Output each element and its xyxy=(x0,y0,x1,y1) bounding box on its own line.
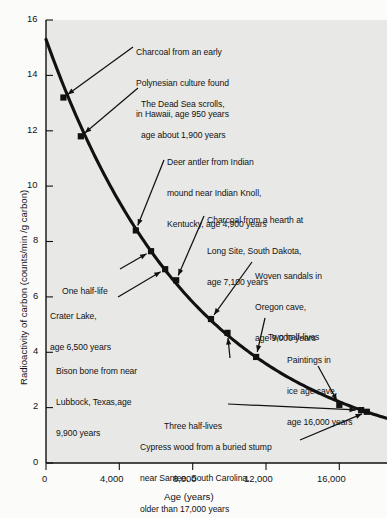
data-point-charcoal-hawaii xyxy=(60,94,66,100)
annotation-cypress-line1: Cypress wood from a buried stump xyxy=(140,442,272,452)
annotation-bison-bone-line2: Lubbock, Texas,age xyxy=(56,397,137,407)
annotation-cypress-line2: near Santee, South Carolina, xyxy=(140,473,272,483)
data-point-bison-bone xyxy=(224,330,230,336)
data-point-three-half-lives xyxy=(358,407,364,413)
y-tick-4: 4 xyxy=(33,345,38,356)
annotation-crater-lake-line1: Crater Lake, xyxy=(50,311,111,321)
y-tick-16: 16 xyxy=(27,13,37,24)
y-tick-10: 10 xyxy=(27,179,37,190)
annotation-charcoal-hawaii-line1: Charcoal from an early xyxy=(136,47,229,57)
annotation-bison-bone: Bison bone from near Lubbock, Texas,age … xyxy=(56,345,137,459)
annotation-ice-age-line1: Paintings in xyxy=(287,355,353,365)
y-tick-8: 8 xyxy=(33,234,38,245)
y-axis-title: Radioactivity of carbon (counts/min /g c… xyxy=(18,190,29,385)
data-point-charcoal-long-site xyxy=(173,277,179,283)
y-tick-14: 14 xyxy=(27,68,37,79)
x-tick-0: 0 xyxy=(42,473,47,484)
annotation-bison-bone-line1: Bison bone from near xyxy=(56,366,137,376)
x-tick-16000: 16,000 xyxy=(317,473,346,484)
y-tick-12: 12 xyxy=(27,124,37,135)
data-point-dead-sea-scrolls xyxy=(78,133,84,139)
annotation-deer-antler-line1: Deer antler from Indian xyxy=(167,157,267,167)
y-tick-0: 0 xyxy=(33,456,38,467)
data-point-one-half-life xyxy=(148,248,154,254)
annotation-long-site-line1: Charcoal from a hearth at xyxy=(207,215,303,225)
y-tick-2: 2 xyxy=(33,400,38,411)
data-point-crater-lake xyxy=(162,266,168,272)
annotation-ice-age-line2: ice age cave, xyxy=(287,386,353,396)
x-tick-4000: 4,000 xyxy=(100,473,123,484)
data-point-deer-antler xyxy=(133,227,139,233)
annotation-cypress-wood: Cypress wood from a buried stump near Sa… xyxy=(140,421,272,518)
annotation-woven-sandals-line1: Woven sandals in xyxy=(255,271,322,281)
y-tick-6: 6 xyxy=(33,290,38,301)
annotation-dead-sea-line1: The Dead Sea scrolls, xyxy=(141,99,225,109)
annotation-cypress-line3: older than 17,000 years xyxy=(140,504,272,514)
annotation-bison-bone-line3: 9,900 years xyxy=(56,428,137,438)
annotation-ice-age-line3: age 16,000 years xyxy=(287,417,353,427)
annotation-ice-age-paintings: Paintings in ice age cave, age 16,000 ye… xyxy=(287,334,353,448)
data-point-woven-sandals xyxy=(208,316,214,322)
data-point-cypress-wood xyxy=(364,409,370,415)
